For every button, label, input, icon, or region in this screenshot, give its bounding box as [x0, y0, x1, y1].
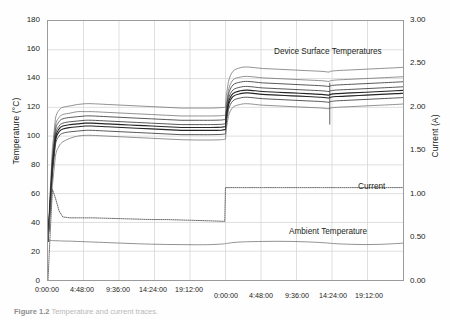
- y-left-tick-60: 60: [14, 189, 40, 198]
- figure-caption-text: Temperature and current traces.: [51, 307, 158, 316]
- chart-canvas: [48, 21, 403, 280]
- y-left-tick-0: 0: [14, 276, 40, 285]
- y-right-tick-100: 1.00: [410, 189, 440, 198]
- gridlines: [48, 21, 403, 280]
- x-tick-9: 19:12:00: [339, 291, 399, 300]
- figure-caption-label: Figure 1.2: [14, 307, 49, 316]
- annotation-current: Current: [358, 182, 385, 191]
- plot-area: [47, 20, 404, 281]
- y-left-tick-140: 140: [14, 73, 40, 82]
- y-left-tick-180: 180: [14, 15, 40, 24]
- annotation-device-surface-temperatures: Device Surface Temperatures: [274, 47, 382, 56]
- figure-container: Temperature (°C) 180 160 140 120 100 80 …: [0, 0, 450, 319]
- y-left-tick-120: 120: [14, 102, 40, 111]
- y-right-tick-200: 2.00: [410, 102, 440, 111]
- y-axis-right-title: Current (A): [430, 76, 440, 196]
- y-left-tick-20: 20: [14, 247, 40, 256]
- y-right-tick-000: 0.00: [410, 276, 440, 285]
- y-right-tick-300: 3.00: [410, 15, 440, 24]
- y-right-tick-050: 0.50: [410, 232, 440, 241]
- y-left-tick-80: 80: [14, 160, 40, 169]
- y-left-tick-100: 100: [14, 131, 40, 140]
- y-right-tick-150: 1.50: [410, 145, 440, 154]
- y-left-tick-160: 160: [14, 44, 40, 53]
- y-right-tick-250: 2.50: [410, 58, 440, 67]
- y-left-tick-40: 40: [14, 218, 40, 227]
- annotation-ambient-temperature: Ambient Temperature: [289, 227, 367, 236]
- figure-caption: Figure 1.2 Temperature and current trace…: [14, 307, 444, 316]
